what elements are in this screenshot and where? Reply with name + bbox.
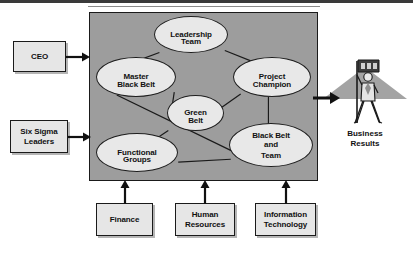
diagram-canvas: Leadership Team Master Black Belt Projec… [0, 0, 413, 255]
box-finance[interactable]: Finance [96, 203, 153, 236]
box-ceo-label: CEO [31, 52, 48, 62]
node-leadership-team-line2: Team [154, 16, 228, 53]
box-six-sigma-leaders[interactable]: Six Sigma Leaders [10, 120, 68, 153]
box-information-technology-label2: Technology [264, 220, 307, 230]
node-green-belt-label2: Belt [186, 116, 205, 126]
page-top-rule [0, 0, 413, 3]
box-information-technology-label1: Information [264, 210, 307, 220]
node-green-belt-line2: Belt [167, 95, 224, 131]
business-results-label: Business Results [321, 129, 409, 148]
node-functional-groups-line2: Groups [96, 133, 178, 172]
box-human-resources-label2: Resources [185, 220, 225, 230]
box-human-resources-label1: Human [185, 210, 225, 220]
node-functional-groups-label2: Groups [121, 155, 153, 165]
box-finance-label: Finance [110, 215, 140, 225]
box-six-sigma-leaders-label2: Leaders [20, 137, 57, 147]
arrow-finance-to-panel [118, 180, 132, 204]
figure-caption-cutoff [8, 246, 188, 255]
node-leadership-team-label2: Team [179, 37, 203, 47]
business-results-label1: Business [321, 129, 409, 139]
business-results-label2: Results [321, 139, 409, 149]
arrow-ceo-to-panel [66, 50, 91, 64]
arrow-human-resources-to-panel [198, 180, 212, 204]
box-information-technology[interactable]: Information Technology [255, 203, 316, 236]
business-results-group: Business Results [321, 55, 409, 155]
node-black-belt-and-team-label3: Team [259, 151, 283, 161]
panel-top-hairline [88, 6, 320, 7]
node-black-belt-and-team-line3: Team [229, 123, 313, 167]
node-project-champion-line2: Champion [233, 57, 311, 97]
box-ceo[interactable]: CEO [13, 41, 66, 72]
box-six-sigma-leaders-label1: Six Sigma [20, 127, 57, 137]
node-master-black-belt-line2: Black Belt [96, 57, 176, 97]
node-project-champion-label2: Champion [251, 80, 293, 90]
climber-with-flag-on-peak-icon [321, 55, 409, 129]
box-human-resources[interactable]: Human Resources [175, 203, 235, 236]
arrow-information-technology-to-panel [279, 180, 293, 204]
node-master-black-belt-label2: Black Belt [115, 80, 157, 90]
